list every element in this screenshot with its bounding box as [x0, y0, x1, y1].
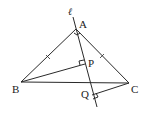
- label-c: C: [131, 83, 138, 95]
- geometry-figure: ℓ A B C P Q: [0, 0, 146, 114]
- label-b: B: [12, 83, 19, 95]
- label-q: Q: [81, 88, 89, 100]
- label-line-l: ℓ: [68, 6, 72, 17]
- segment-bc: [21, 82, 129, 83]
- segment-cq: [92, 83, 129, 95]
- label-p: P: [88, 57, 94, 69]
- label-a: A: [79, 18, 87, 30]
